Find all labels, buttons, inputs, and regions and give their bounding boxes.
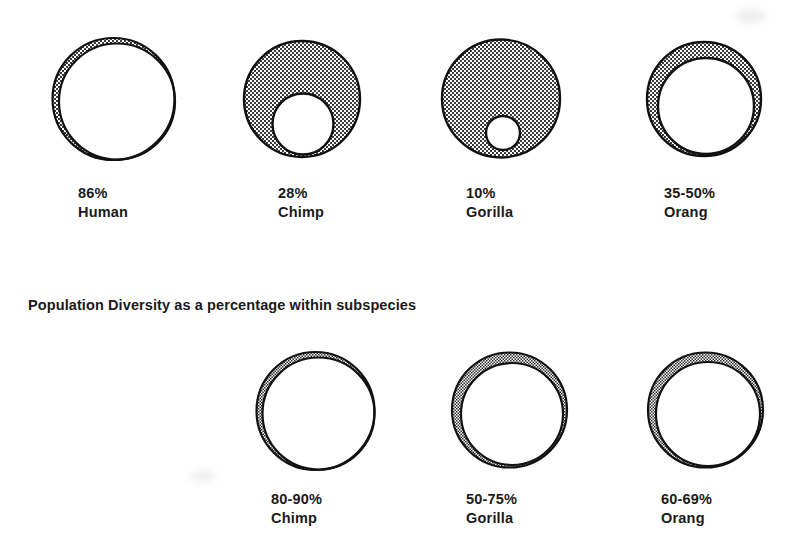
section-caption-population-diversity: Population Diversity as a percentage wit…: [28, 297, 416, 313]
label-human: 86% Human: [78, 184, 128, 222]
label-gorilla-percent: 10%: [466, 184, 513, 203]
figure-canvas: 86% Human 28% Chimp 10% Gorilla 35-50% O…: [0, 0, 805, 554]
proportional-circles-diagram: [0, 0, 805, 554]
label-orang-population-percent: 60-69%: [661, 490, 712, 509]
label-chimp-percent: 28%: [278, 184, 324, 203]
label-orang-population-species: Orang: [661, 509, 712, 528]
circle-orang-population: [635, 340, 785, 490]
label-chimp-population-percent: 80-90%: [271, 490, 322, 509]
circle-gorilla: [430, 25, 580, 175]
circle-chimp-population: [245, 340, 395, 490]
label-gorilla: 10% Gorilla: [466, 184, 513, 222]
label-orang-population: 60-69% Orang: [661, 490, 712, 528]
label-gorilla-population-percent: 50-75%: [466, 490, 517, 509]
label-gorilla-population-species: Gorilla: [466, 509, 517, 528]
label-human-percent: 86%: [78, 184, 128, 203]
label-chimp-species: Chimp: [278, 203, 324, 222]
circle-human: [40, 25, 190, 175]
label-chimp-population: 80-90% Chimp: [271, 490, 322, 528]
label-human-species: Human: [78, 203, 128, 222]
circle-gorilla-population: [440, 340, 590, 490]
circle-orang: [630, 25, 780, 175]
label-orang-species: Orang: [664, 203, 715, 222]
label-gorilla-species: Gorilla: [466, 203, 513, 222]
label-chimp-population-species: Chimp: [271, 509, 322, 528]
label-orang-percent: 35-50%: [664, 184, 715, 203]
label-orang: 35-50% Orang: [664, 184, 715, 222]
circle-chimp: [230, 25, 380, 175]
label-chimp: 28% Chimp: [278, 184, 324, 222]
label-gorilla-population: 50-75% Gorilla: [466, 490, 517, 528]
